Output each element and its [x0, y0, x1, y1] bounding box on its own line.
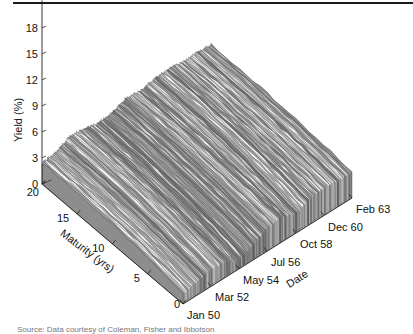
- date-tick-label: Feb 63: [356, 203, 390, 215]
- date-tick-label: Dec 60: [328, 221, 363, 233]
- surface: [42, 43, 352, 304]
- z-tick-label: 6: [32, 126, 38, 138]
- z-tick-label: 15: [26, 48, 38, 60]
- date-tick-label: Jan 50: [187, 309, 220, 321]
- maturity-tick-label: 15: [57, 212, 69, 224]
- z-tick-label: 18: [26, 22, 38, 34]
- date-tick-label: Mar 52: [215, 291, 249, 303]
- z-tick: [42, 78, 46, 80]
- z-tick: [42, 156, 46, 158]
- z-tick: [42, 104, 46, 106]
- maturity-tick-label: 5: [134, 272, 140, 284]
- maturity-tick-label: 20: [27, 186, 39, 198]
- maturity-tick-label: 0: [174, 298, 180, 310]
- z-tick-label: 3: [32, 152, 38, 164]
- z-tick: [42, 130, 46, 132]
- z-tick: [42, 52, 46, 54]
- date-axis-label: Date: [284, 267, 310, 289]
- date-tick-label: Jul 56: [271, 256, 300, 268]
- date-tick-label: Oct 58: [300, 238, 332, 250]
- source-note: Source: Data courtesy of Coleman, Fisher…: [17, 325, 214, 334]
- z-tick: [42, 26, 46, 28]
- z-tick-label: 12: [26, 74, 38, 86]
- z-tick-label: 9: [32, 100, 38, 112]
- yield-axis-label: Yield (%): [12, 98, 24, 142]
- date-tick-label: May 54: [243, 274, 279, 286]
